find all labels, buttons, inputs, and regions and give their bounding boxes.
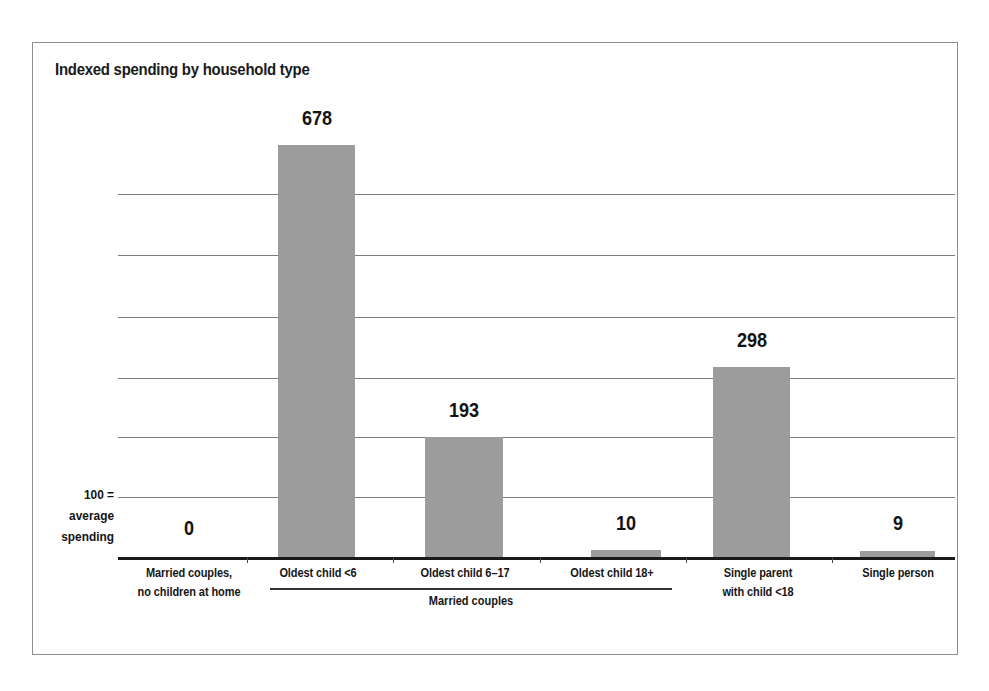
chart-frame xyxy=(32,42,958,655)
chart-page: Indexed spending by household type 0 678… xyxy=(0,0,989,691)
chart-title: Indexed spending by household type xyxy=(55,60,310,80)
